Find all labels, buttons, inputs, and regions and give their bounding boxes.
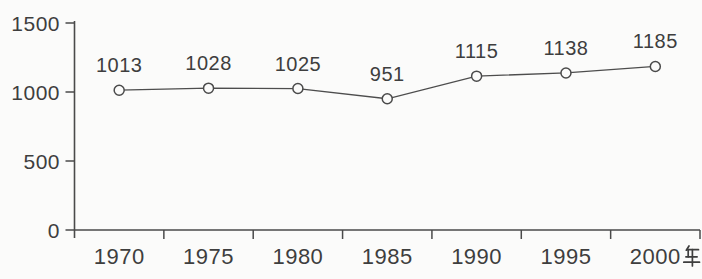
y-tick-label: 500 bbox=[23, 150, 60, 173]
data-point-label: 1115 bbox=[455, 40, 499, 62]
line-chart: 0500100015001013102810259511115113811851… bbox=[0, 0, 702, 279]
data-point-label: 1025 bbox=[275, 53, 322, 75]
x-tick-label: 2000 bbox=[630, 244, 681, 269]
year-unit-kanji bbox=[684, 246, 700, 266]
y-tick-label: 1500 bbox=[11, 12, 60, 35]
x-tick-label: 1985 bbox=[362, 244, 413, 269]
x-tick-label: 1970 bbox=[94, 244, 145, 269]
data-point-marker bbox=[561, 68, 571, 78]
data-point-marker bbox=[382, 94, 392, 104]
x-tick-label: 1995 bbox=[540, 244, 591, 269]
y-tick-label: 1000 bbox=[11, 81, 60, 104]
x-tick-label: 1975 bbox=[183, 244, 234, 269]
data-point-label: 1028 bbox=[185, 52, 232, 74]
data-point-marker bbox=[650, 61, 660, 71]
data-point-marker bbox=[293, 84, 303, 94]
data-point-label: 1138 bbox=[543, 37, 588, 59]
y-tick-label: 0 bbox=[48, 219, 60, 242]
line-chart-figure: 0500100015001013102810259511115113811851… bbox=[0, 0, 702, 279]
data-point-marker bbox=[472, 71, 482, 81]
data-point-label: 951 bbox=[370, 63, 405, 85]
data-point-label: 1013 bbox=[96, 54, 143, 76]
data-point-marker bbox=[204, 83, 214, 93]
data-point-label: 1185 bbox=[633, 30, 678, 52]
x-tick-label: 1980 bbox=[272, 244, 323, 269]
x-tick-label: 1990 bbox=[451, 244, 502, 269]
data-point-marker bbox=[114, 85, 124, 95]
